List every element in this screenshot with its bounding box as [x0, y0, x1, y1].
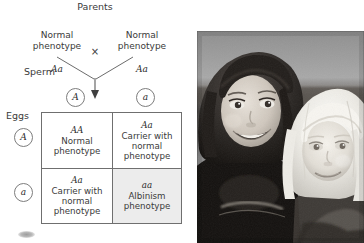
egg-gamete-A-label: A — [20, 133, 27, 142]
sperm-gamete-A-label: A — [72, 93, 79, 102]
eggs-label: Eggs — [6, 111, 40, 122]
punnett-cell-AA-description: Normal phenotype — [54, 136, 101, 156]
egg-gamete-a: a — [14, 183, 33, 202]
punnett-cell-Aa-bottom: Aa Carrier with normal phenotype — [42, 168, 112, 223]
sperm-gamete-A: A — [66, 88, 85, 107]
punnett-cell-Aa-top-genotype: Aa — [141, 120, 152, 130]
punnett-cell-Aa-bottom-genotype: Aa — [71, 175, 82, 185]
cross-multiplication-symbol: × — [88, 47, 102, 58]
punnett-cell-aa-albinism: aa Albinism phenotype — [112, 168, 181, 223]
albinism-punnett-square-figure: Parents Normal phenotype Aa Normal pheno… — [0, 0, 364, 243]
parent-right: Normal phenotype Aa — [105, 19, 179, 86]
sperm-label: Sperm — [24, 67, 70, 78]
parent-right-genotype: Aa — [105, 64, 179, 75]
punnett-square-grid: AA Normal phenotype Aa Carrier with norm… — [41, 112, 182, 224]
photograph-content — [197, 31, 364, 243]
page-smudge-mark — [18, 231, 35, 238]
punnett-cell-aa-genotype: aa — [142, 180, 152, 190]
egg-gamete-A: A — [14, 128, 33, 147]
punnett-cell-aa-description: Albinism phenotype — [124, 191, 171, 211]
egg-gamete-a-label: a — [21, 188, 26, 197]
punnett-cell-AA-genotype: AA — [71, 125, 84, 135]
punnett-cell-Aa-top-description: Carrier with normal phenotype — [122, 131, 173, 162]
punnett-cell-Aa-top: Aa Carrier with normal phenotype — [112, 113, 181, 168]
punnett-cell-AA: AA Normal phenotype — [42, 113, 112, 168]
parent-left-phenotype: Normal phenotype — [20, 30, 94, 52]
sperm-gamete-a-label: a — [143, 93, 148, 102]
punnett-cell-Aa-bottom-description: Carrier with normal phenotype — [52, 186, 103, 217]
parents-heading: Parents — [0, 2, 190, 13]
parent-right-phenotype: Normal phenotype — [105, 30, 179, 52]
albinism-sisters-photograph — [197, 31, 364, 243]
sperm-gamete-a: a — [136, 88, 155, 107]
